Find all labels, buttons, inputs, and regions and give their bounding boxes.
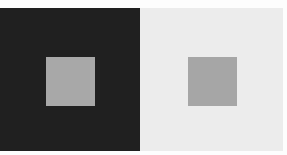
contrast-illusion: [0, 0, 287, 155]
gray-square-on-dark: [46, 57, 95, 106]
dark-panel: [0, 8, 140, 151]
gray-square-on-light: [188, 57, 237, 106]
light-panel: [140, 8, 283, 151]
